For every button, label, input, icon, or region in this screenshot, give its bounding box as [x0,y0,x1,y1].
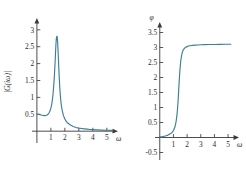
y-axis-title: |G(iω)| [3,71,12,93]
y-tick-label: 2.5 [148,58,158,67]
phase-plot-panel: 12345-0.50.511.522.533.5ωφ [123,0,246,170]
x-tick-label: 5 [226,140,230,149]
y-tick-label: 3.5 [148,28,158,37]
bode-magnitude-phase-figure: 123450.511.522.53ω|G(iω)| 12345-0.50.511… [0,0,246,170]
y-tick-label: 0.5 [148,118,158,127]
y-tick-label: 1 [31,93,35,102]
y-tick-label: 2 [153,73,157,82]
x-tick-label: 5 [105,133,109,142]
y-tick-label: 2.5 [25,42,35,51]
response-curve [160,44,231,137]
x-tick-label: 2 [63,133,67,142]
x-tick-label: 3 [77,133,81,142]
x-tick-label: 1 [49,133,53,142]
magnitude-plot-panel: 123450.511.522.53ω|G(iω)| [0,0,123,170]
response-curve [37,36,113,130]
x-tick-label: 4 [91,133,95,142]
y-tick-label: 0.5 [25,110,35,119]
y-tick-label: 3 [153,43,157,52]
y-tick-label: -0.5 [145,148,157,157]
y-tick-label: 1 [153,103,157,112]
y-tick-label: 3 [31,26,35,35]
x-axis-title: ω [116,134,122,143]
y-tick-label: 1.5 [148,88,158,97]
x-tick-label: 4 [213,140,217,149]
y-axis-arrow-icon [34,18,39,24]
y-tick-label: 1.5 [25,76,35,85]
x-tick-label: 3 [199,140,203,149]
phase-plot-svg: 12345-0.50.511.522.533.5ωφ [123,0,246,170]
x-tick-label: 1 [172,140,176,149]
x-tick-label: 2 [185,140,189,149]
y-axis-arrow-icon [157,22,162,28]
y-axis-title: φ [149,13,153,22]
y-tick-label: 2 [31,59,35,68]
magnitude-plot-svg: 123450.511.522.53ω|G(iω)| [0,0,123,170]
x-axis-title: ω [237,140,243,149]
